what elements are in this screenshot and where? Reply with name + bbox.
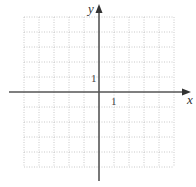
x-tick-label: 1 xyxy=(111,95,117,107)
y-tick-label: 1 xyxy=(91,72,97,84)
y-axis-arrow-icon xyxy=(96,4,103,13)
coordinate-plane: x y 1 1 xyxy=(0,0,196,187)
x-axis-label: x xyxy=(186,92,193,107)
y-axis-label: y xyxy=(86,1,94,16)
